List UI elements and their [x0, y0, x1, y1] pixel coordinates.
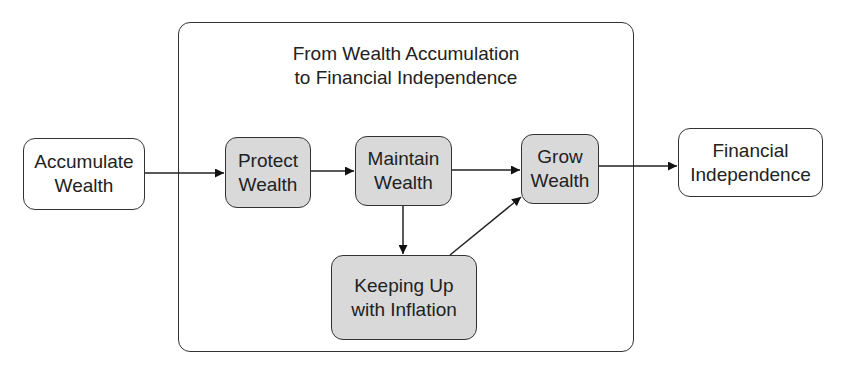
- node-grow-wealth: Grow Wealth: [521, 134, 599, 204]
- node-keeping-up-with-inflation: Keeping Up with Inflation: [331, 255, 477, 340]
- node-label-line-2: Wealth: [238, 173, 298, 197]
- edge-inflation-to-grow: [450, 197, 521, 255]
- node-label-line-2: with Inflation: [351, 298, 457, 322]
- node-label-line-1: Protect: [238, 149, 298, 173]
- node-label-line-2: Wealth: [34, 174, 133, 198]
- node-label-line-2: Wealth: [531, 169, 590, 193]
- node-label-line-2: Wealth: [368, 171, 440, 195]
- node-financial-independence: Financial Independence: [678, 128, 823, 197]
- node-accumulate-wealth: Accumulate Wealth: [23, 138, 145, 210]
- node-label-line-1: Financial: [690, 139, 810, 163]
- node-label-line-1: Accumulate: [34, 150, 133, 174]
- node-label-line-2: Independence: [690, 163, 810, 187]
- node-protect-wealth: Protect Wealth: [225, 137, 311, 208]
- node-label-line-1: Keeping Up: [351, 274, 457, 298]
- node-label-line-1: Maintain: [368, 147, 440, 171]
- node-maintain-wealth: Maintain Wealth: [355, 136, 452, 206]
- node-label-line-1: Grow: [531, 145, 590, 169]
